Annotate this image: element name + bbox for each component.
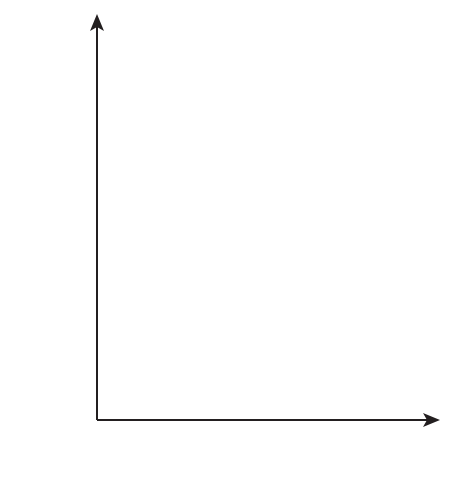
cumulative-frequency-chart xyxy=(0,0,463,488)
axes xyxy=(90,14,440,427)
